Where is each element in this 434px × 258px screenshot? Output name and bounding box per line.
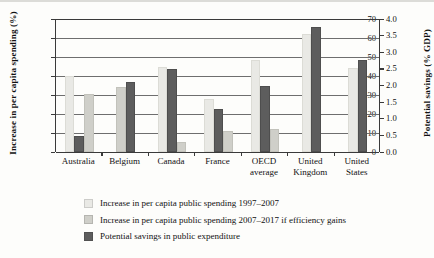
legend-item: Increase in per capita public spending 1… xyxy=(84,195,414,212)
x-tick-label-line: United xyxy=(287,156,333,167)
x-tick-label-line: United xyxy=(334,156,380,167)
x-tick-label-line: Belgium xyxy=(101,156,147,167)
bar xyxy=(74,136,84,152)
x-tick-label-line: France xyxy=(194,156,240,167)
legend-item: Potential savings in public expenditure xyxy=(84,228,414,245)
bar-group xyxy=(56,19,102,152)
bar xyxy=(260,86,270,153)
x-tick-label: UnitedStates xyxy=(334,156,380,177)
legend-swatch xyxy=(84,232,93,241)
x-tick-label: Canada xyxy=(148,156,194,167)
bar-group xyxy=(242,19,288,152)
legend-label: Potential savings in public expenditure xyxy=(100,231,240,241)
x-tick-label-line: States xyxy=(334,167,380,178)
x-tick-label-line: Canada xyxy=(148,156,194,167)
x-tick-label: Belgium xyxy=(101,156,147,167)
bar xyxy=(223,131,233,152)
y-tick-label-right: 3.5 xyxy=(386,31,412,40)
x-tick-label-line: average xyxy=(241,167,287,178)
chart-figure: Increase in per capita spending (%) Pote… xyxy=(0,0,434,258)
bar xyxy=(177,142,187,152)
bar xyxy=(116,87,126,152)
legend-swatch xyxy=(84,215,93,224)
legend-label: Increase in per capita public spending 2… xyxy=(100,215,346,225)
x-tick-label: Australia xyxy=(55,156,101,167)
y-tick-label-right: 2.0 xyxy=(386,81,412,90)
bar xyxy=(270,129,280,152)
bar xyxy=(251,60,261,152)
y-axis-left-title: Increase in per capita spending (%) xyxy=(8,8,18,158)
x-tick-label-line: Kingdom xyxy=(287,167,333,178)
y-axis-right-title: Potential savings (% GDP) xyxy=(422,8,432,158)
legend-item: Increase in per capita public spending 2… xyxy=(84,212,414,229)
y-tick-label-right: 2.5 xyxy=(386,64,412,73)
bar-group xyxy=(102,19,148,152)
y-tick-label-right: 1.5 xyxy=(386,98,412,107)
chart-legend: Increase in per capita public spending 1… xyxy=(84,195,414,245)
bar-group xyxy=(335,19,381,152)
x-tick-label: France xyxy=(194,156,240,167)
bar xyxy=(302,34,312,152)
x-tick-label-line: Australia xyxy=(55,156,101,167)
y-tick-label-right: 1.0 xyxy=(386,114,412,123)
legend-swatch xyxy=(84,199,93,208)
scan-artifact xyxy=(0,0,434,2)
bar xyxy=(214,109,224,152)
bar xyxy=(167,69,177,152)
bar xyxy=(311,27,321,152)
bar xyxy=(84,94,94,152)
bar xyxy=(126,82,136,152)
x-tick-label: OECDaverage xyxy=(241,156,287,177)
y-tick-label-right: 0.5 xyxy=(386,131,412,140)
y-tick-label-right: 4.0 xyxy=(386,15,412,24)
bar xyxy=(204,99,214,152)
legend-label: Increase in per capita public spending 1… xyxy=(100,198,279,208)
x-tick-label-line: OECD xyxy=(241,156,287,167)
bar-group xyxy=(288,19,334,152)
bar xyxy=(348,68,358,152)
x-tick-label: UnitedKingdom xyxy=(287,156,333,177)
bar-group xyxy=(195,19,241,152)
bar xyxy=(158,67,168,153)
plot-area xyxy=(55,19,380,152)
y-tick-label-right: 0.0 xyxy=(386,148,412,157)
y-tick-label-right: 3.0 xyxy=(386,48,412,57)
bar xyxy=(65,76,75,152)
bar xyxy=(358,60,368,152)
bar-group xyxy=(149,19,195,152)
